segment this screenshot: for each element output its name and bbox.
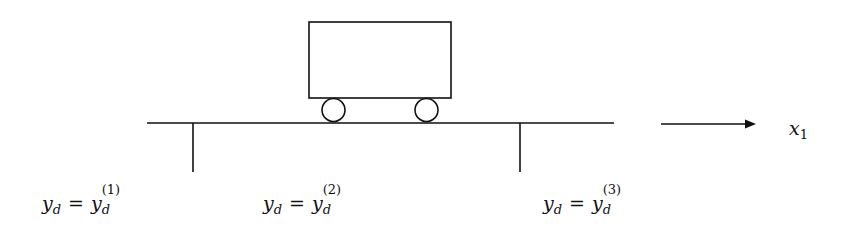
label-rhs-superscript: (1) <box>102 183 120 196</box>
label-lhs-base: y <box>543 192 554 214</box>
equals-sign: = <box>569 192 585 214</box>
axis-label-x1: x1 <box>789 119 808 138</box>
label-rhs-subscript: d <box>323 203 331 216</box>
label-lhs-base: y <box>42 192 53 214</box>
axis-label-subscript: 1 <box>800 127 808 142</box>
reference-label-2: yd=y(2)d <box>263 194 345 213</box>
reference-label-3: yd=y(3)d <box>543 194 625 213</box>
label-rhs-base: y <box>592 192 603 214</box>
label-lhs-subscript: d <box>274 202 282 217</box>
label-lhs-base: y <box>263 192 274 214</box>
label-rhs-base: y <box>91 192 102 214</box>
label-lhs-subscript: d <box>554 202 562 217</box>
label-rhs-subscript: d <box>603 203 611 216</box>
label-rhs-superscript: (2) <box>323 183 341 196</box>
label-rhs-base: y <box>312 192 323 214</box>
label-lhs-subscript: d <box>53 202 61 217</box>
axis-label-base: x <box>789 117 800 139</box>
equals-sign: = <box>68 192 84 214</box>
label-rhs-subscript: d <box>102 203 110 216</box>
label-rhs-superscript: (3) <box>603 183 621 196</box>
cart-wheel-left <box>322 99 345 122</box>
reference-label-1: yd=y(1)d <box>42 194 124 213</box>
cart-wheel-right <box>415 99 438 122</box>
equals-sign: = <box>289 192 305 214</box>
direction-arrow-head <box>745 120 756 129</box>
cart-body <box>309 22 451 98</box>
cart-track-diagram <box>0 0 853 242</box>
